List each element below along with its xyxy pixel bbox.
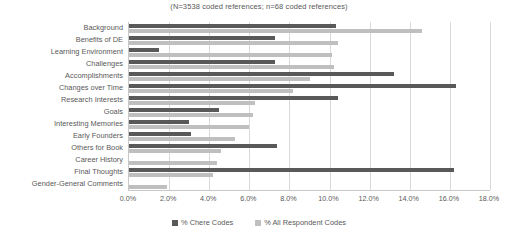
bar-group (129, 22, 490, 34)
x-tick-label: 10.0% (318, 194, 338, 203)
category-label: Interesting Memories (54, 119, 123, 129)
legend-swatch-icon (172, 220, 178, 226)
category-label: Benefits of DE (76, 35, 123, 45)
x-tick-label: 2.0% (160, 194, 176, 203)
legend-label: % Chere Codes (181, 218, 233, 227)
bar-group (129, 82, 490, 94)
bar-group (129, 94, 490, 106)
bar-chere (129, 132, 191, 136)
chart-title: (N=3538 coded references; n=68 coded ref… (0, 2, 518, 11)
bar-chere (129, 36, 275, 40)
bar-all-respondent (129, 113, 253, 117)
bar-all-respondent (129, 161, 217, 165)
bar-chere (129, 108, 219, 112)
category-label: Background (84, 23, 123, 33)
plot-area (128, 22, 490, 190)
x-tick-label: 16.0% (439, 194, 459, 203)
bar-chart: (N=3538 coded references; n=68 coded ref… (0, 0, 518, 239)
legend-swatch-icon (255, 220, 261, 226)
bar-chere (129, 48, 159, 52)
bar-all-respondent (129, 89, 293, 93)
category-label: Changes over Time (59, 83, 123, 93)
category-label: Early Founders (73, 131, 123, 141)
bar-chere (129, 96, 338, 100)
legend-item[interactable]: % Chere Codes (172, 218, 233, 227)
bar-all-respondent (129, 149, 221, 153)
x-tick-label: 14.0% (399, 194, 419, 203)
category-axis: BackgroundBenefits of DELearning Environ… (0, 22, 126, 190)
bar-chere (129, 84, 456, 88)
x-tick-label: 0.0% (120, 194, 136, 203)
bar-all-respondent (129, 137, 235, 141)
bar-all-respondent (129, 53, 332, 57)
x-tick-label: 18.0% (479, 194, 499, 203)
bar-chere (129, 144, 277, 148)
bar-group (129, 166, 490, 178)
x-tick-label: 4.0% (200, 194, 216, 203)
bar-all-respondent (129, 125, 249, 129)
bar-group (129, 34, 490, 46)
bar-all-respondent (129, 29, 422, 33)
bar-chere (129, 168, 454, 172)
bar-chere (129, 72, 394, 76)
category-label: Research Interests (61, 95, 123, 105)
bar-chere (129, 120, 189, 124)
category-label: Gender-General Comments (32, 179, 123, 189)
bar-group (129, 154, 490, 166)
gridline (490, 22, 491, 190)
bar-chere (129, 60, 275, 64)
bar-group (129, 142, 490, 154)
category-label: Learning Environment (51, 47, 123, 57)
bar-all-respondent (129, 173, 213, 177)
x-tick-label: 6.0% (240, 194, 256, 203)
bar-group (129, 106, 490, 118)
chart-legend: % Chere Codes% All Respondent Codes (0, 218, 518, 227)
legend-label: % All Respondent Codes (264, 218, 346, 227)
bar-all-respondent (129, 41, 338, 45)
category-label: Accomplishments (65, 71, 123, 81)
x-tick-label: 8.0% (280, 194, 296, 203)
x-axis: 0.0%2.0%4.0%6.0%8.0%10.0%12.0%14.0%16.0%… (128, 190, 490, 205)
category-label: Career History (75, 155, 123, 165)
bar-all-respondent (129, 65, 334, 69)
bar-group (129, 58, 490, 70)
bar-all-respondent (129, 101, 255, 105)
category-label: Goals (104, 107, 123, 117)
category-label: Final Thoughts (74, 167, 123, 177)
x-tick-label: 12.0% (358, 194, 378, 203)
legend-item[interactable]: % All Respondent Codes (255, 218, 346, 227)
bar-all-respondent (129, 77, 310, 81)
bar-group (129, 118, 490, 130)
plot-wrapper: BackgroundBenefits of DELearning Environ… (0, 22, 518, 190)
bar-group (129, 70, 490, 82)
bar-all-respondent (129, 185, 167, 189)
bar-group (129, 130, 490, 142)
bar-group (129, 178, 490, 190)
bar-chere (129, 24, 336, 28)
category-label: Others for Book (71, 143, 123, 153)
category-label: Challenges (86, 59, 123, 69)
bar-group (129, 46, 490, 58)
